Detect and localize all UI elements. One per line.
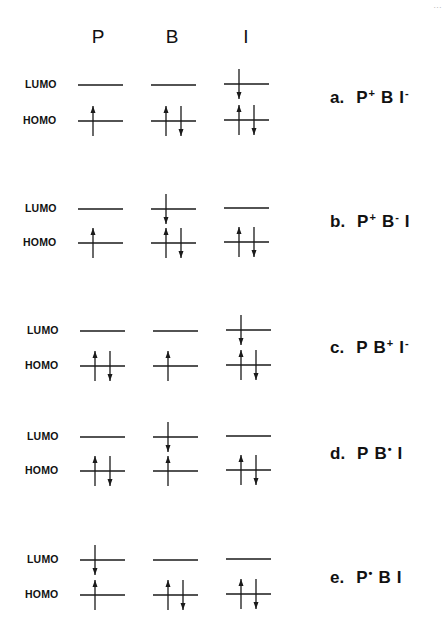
- homo-i-a-b-down-arrow-icon: [252, 128, 257, 135]
- homo-i-e-b-down-arrow-icon: [254, 602, 259, 609]
- homo-b-c-up-arrow-icon: [166, 351, 171, 358]
- lumo-i-a-down-arrow-icon: [237, 92, 242, 99]
- lumo-b-b-down-arrow-icon: [164, 217, 169, 224]
- homo-p-d-b-down-arrow-icon: [108, 479, 113, 486]
- orbital-diagram: [0, 0, 445, 629]
- homo-i-c-a-up-arrow-icon: [239, 350, 244, 357]
- homo-p-c-b-down-arrow-icon: [108, 374, 113, 381]
- homo-i-b-a-up-arrow-icon: [237, 227, 242, 234]
- homo-p-e-up-arrow-icon: [93, 580, 98, 587]
- lumo-p-e-down-arrow-icon: [93, 568, 98, 575]
- homo-b-a-a-up-arrow-icon: [164, 106, 169, 113]
- homo-b-b-a-up-arrow-icon: [164, 228, 169, 235]
- homo-b-b-b-down-arrow-icon: [179, 251, 184, 258]
- homo-p-d-a-up-arrow-icon: [93, 456, 98, 463]
- homo-i-b-b-down-arrow-icon: [252, 250, 257, 257]
- homo-i-c-b-down-arrow-icon: [254, 373, 259, 380]
- homo-i-a-a-up-arrow-icon: [237, 105, 242, 112]
- lumo-b-d-down-arrow-icon: [166, 445, 171, 452]
- homo-i-d-a-up-arrow-icon: [239, 455, 244, 462]
- homo-i-e-a-up-arrow-icon: [239, 579, 244, 586]
- lumo-i-c-down-arrow-icon: [239, 338, 244, 345]
- homo-b-e-a-up-arrow-icon: [166, 580, 171, 587]
- homo-b-a-b-down-arrow-icon: [179, 129, 184, 136]
- homo-p-a-up-arrow-icon: [91, 106, 96, 113]
- homo-i-d-b-down-arrow-icon: [254, 478, 259, 485]
- homo-b-d-up-arrow-icon: [166, 456, 171, 463]
- homo-p-b-up-arrow-icon: [91, 228, 96, 235]
- homo-p-c-a-up-arrow-icon: [93, 351, 98, 358]
- homo-b-e-b-down-arrow-icon: [181, 603, 186, 610]
